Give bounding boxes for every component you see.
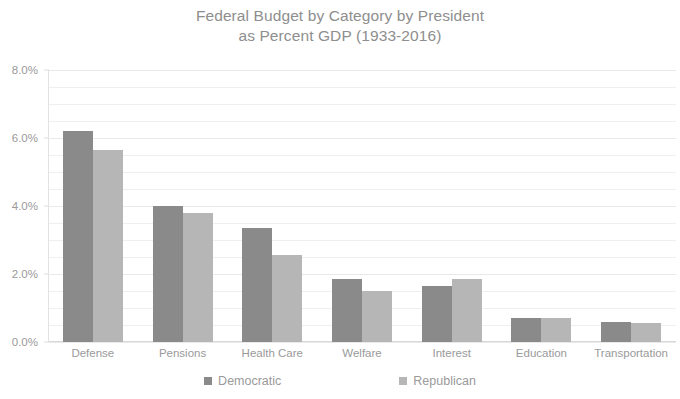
bar-democratic-defense[interactable] — [63, 131, 93, 342]
bar-republican-education[interactable] — [541, 318, 571, 342]
bar-republican-health-care[interactable] — [272, 255, 302, 342]
x-axis-tick-label: Transportation — [586, 347, 676, 359]
bar-republican-transportation[interactable] — [631, 323, 661, 342]
x-axis-tick-label: Interest — [407, 347, 497, 359]
y-axis-tick-label: 2.0% — [12, 268, 38, 280]
bar-group — [497, 70, 587, 342]
x-axis-tick-label: Health Care — [227, 347, 317, 359]
y-axis-tick-label: 6.0% — [12, 132, 38, 144]
bar-democratic-transportation[interactable] — [601, 322, 631, 342]
y-axis: 0.0%2.0%4.0%6.0%8.0% — [0, 70, 44, 342]
bar-group — [407, 70, 497, 342]
bar-democratic-health-care[interactable] — [242, 228, 272, 342]
bar-republican-interest[interactable] — [452, 279, 482, 342]
legend-swatch-icon — [204, 377, 212, 385]
bar-group — [317, 70, 407, 342]
y-axis-tick-label: 0.0% — [12, 336, 38, 348]
bar-republican-welfare[interactable] — [362, 291, 392, 342]
bar-group — [227, 70, 317, 342]
y-axis-tick-label: 4.0% — [12, 200, 38, 212]
legend-label: Democratic — [218, 374, 281, 388]
x-axis-tick-label: Welfare — [317, 347, 407, 359]
bar-republican-pensions[interactable] — [183, 213, 213, 342]
legend-item-democratic[interactable]: Democratic — [204, 374, 281, 388]
gridline — [49, 342, 676, 343]
legend-label: Republican — [413, 374, 476, 388]
x-axis: DefensePensionsHealth CareWelfareInteres… — [48, 347, 676, 369]
legend-item-republican[interactable]: Republican — [399, 374, 476, 388]
bars-layer — [48, 70, 676, 342]
bar-democratic-welfare[interactable] — [332, 279, 362, 342]
y-axis-tick-label: 8.0% — [12, 64, 38, 76]
bar-group — [586, 70, 676, 342]
x-axis-tick-label: Defense — [48, 347, 138, 359]
bar-group — [48, 70, 138, 342]
bar-chart: Federal Budget by Category by President … — [0, 0, 680, 399]
x-axis-tick-label: Education — [497, 347, 587, 359]
bar-democratic-interest[interactable] — [422, 286, 452, 342]
legend-swatch-icon — [399, 377, 407, 385]
bar-democratic-education[interactable] — [511, 318, 541, 342]
bar-democratic-pensions[interactable] — [153, 206, 183, 342]
bar-group — [138, 70, 228, 342]
bar-republican-defense[interactable] — [93, 150, 123, 342]
chart-title: Federal Budget by Category by President … — [0, 6, 680, 46]
chart-legend: DemocraticRepublican — [0, 374, 680, 388]
x-axis-tick-label: Pensions — [138, 347, 228, 359]
